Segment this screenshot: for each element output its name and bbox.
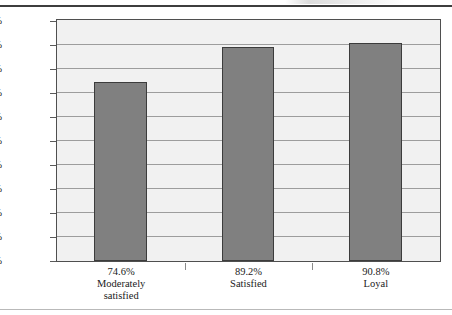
bar-value-label: 89.2% — [185, 266, 312, 278]
plot-area — [56, 19, 441, 262]
bar — [94, 82, 147, 261]
page-rule-bottom — [0, 309, 452, 310]
page-header-smudge — [285, 0, 405, 4]
x-axis-category-label: 74.6%Moderatelysatisfied — [58, 266, 185, 303]
page-rule-top — [0, 5, 452, 7]
y-axis-tick-label: 80.0% — [0, 64, 2, 74]
y-axis-tick-label: 70.0% — [0, 88, 2, 98]
category-name-line: Moderately — [58, 278, 185, 290]
figure-container: 0.0%10.0%20.0%30.0%40.0%50.0%60.0%70.0%8… — [0, 0, 452, 315]
y-axis-tick-label: 40.0% — [0, 160, 2, 170]
category-name-line: Satisfied — [185, 278, 312, 290]
category-name-line: satisfied — [58, 290, 185, 302]
x-axis-category-label: 90.8%Loyal — [312, 266, 439, 290]
y-axis-tick-label: 20.0% — [0, 208, 2, 218]
y-axis-tick-label: 90.0% — [0, 40, 2, 50]
y-axis-tick-label: 60.0% — [0, 112, 2, 122]
bar — [349, 43, 402, 261]
y-axis: 0.0%10.0%20.0%30.0%40.0%50.0%60.0%70.0%8… — [0, 0, 56, 315]
category-name-line: Loyal — [312, 278, 439, 290]
bar-value-label: 74.6% — [58, 266, 185, 278]
y-axis-tick-label: 10.0% — [0, 232, 2, 242]
bar — [222, 47, 275, 261]
y-axis-tick-label: 30.0% — [0, 184, 2, 194]
y-axis-tick-label: 0.0% — [0, 256, 2, 266]
y-axis-tick-label: 50.0% — [0, 136, 2, 146]
x-axis-category-label: 89.2%Satisfied — [185, 266, 312, 290]
y-axis-tick-label: 100.0% — [0, 16, 2, 26]
bar-value-label: 90.8% — [312, 266, 439, 278]
